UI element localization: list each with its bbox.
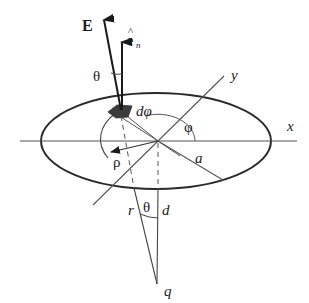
radius-a-line (158, 141, 223, 180)
label-x: x (286, 118, 294, 134)
rho-arrow (111, 141, 158, 152)
label-r: r (128, 202, 134, 218)
label-E: E (82, 17, 93, 34)
disk-field-diagram: E e ^ n θ dφ φ y x ρ a r θ d q (0, 0, 309, 303)
label-theta-bottom: θ (143, 199, 150, 215)
label-dphi: dφ (136, 103, 152, 119)
label-q: q (164, 283, 172, 299)
label-en-hat: ^ (128, 25, 134, 37)
element-projection-dashed (121, 116, 134, 188)
d-line (157, 189, 158, 284)
label-en-sub: n (136, 40, 141, 50)
wedge-extension-line (158, 141, 180, 156)
label-rho: ρ (113, 154, 121, 170)
dphi-wedge-line-2 (128, 117, 158, 141)
theta-top-arc (111, 73, 122, 74)
label-a: a (195, 150, 203, 166)
label-theta-top: θ (93, 68, 100, 84)
label-y: y (229, 67, 238, 83)
label-phi: φ (184, 119, 193, 135)
label-d: d (162, 202, 170, 218)
